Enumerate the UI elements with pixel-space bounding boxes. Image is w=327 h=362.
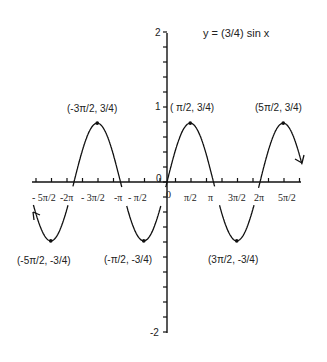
x-tick-label-neg-3pi-2: - 3π/2 <box>81 193 105 203</box>
x-tick-label-neg-pi: -π <box>114 193 122 203</box>
point-label-neg-pi-2: (-π/2, -3/4) <box>104 255 152 265</box>
y-tick-label-neg2: -2 <box>150 328 159 338</box>
chart-title: y = (3/4) sin x <box>203 28 269 39</box>
x-tick-label-neg-pi-2: - π/2 <box>128 193 147 203</box>
x-tick-label-2pi: 2π <box>254 193 264 203</box>
y-tick-label-1: 1 <box>155 102 161 112</box>
y-tick-label-2: 2 <box>155 28 161 38</box>
x-tick-label-pi: π <box>208 193 213 203</box>
point-label-neg-3pi-2: (-3π/2, 3/4) <box>67 104 117 114</box>
x-tick-label-5pi-2: 5π/2 <box>278 193 296 203</box>
point-label-3pi-2: (3π/2, -3/4) <box>208 255 258 265</box>
x-tick-label-3pi-2: 3π/2 <box>228 193 246 203</box>
sine-plot <box>0 0 327 362</box>
point-label-pi-2: ( π/2, 3/4) <box>170 103 214 113</box>
point-label-neg-5pi-2: (-5π/2, -3/4) <box>17 256 71 266</box>
x-tick-label-pi-2: π/2 <box>184 193 197 203</box>
x-tick-label-neg-2pi: -2π <box>60 193 73 203</box>
x-tick-label-origin: 0 <box>166 190 171 200</box>
y-tick-label-0: 0 <box>156 174 162 184</box>
point-label-5pi-2: (5π/2, 3/4) <box>255 103 302 113</box>
x-tick-label-neg-5pi-2: - 5π/2 <box>32 193 56 203</box>
